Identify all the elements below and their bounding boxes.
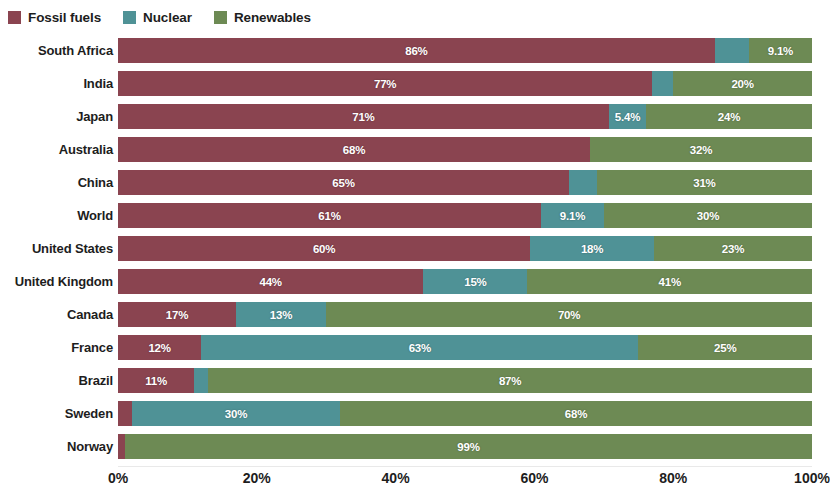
bar-value-label: 68% [343,144,365,156]
legend-swatch-nuclear [123,11,136,24]
bar-segment-fossil-fuels[interactable]: 60% [118,236,530,261]
bar-row[interactable]: 65%31% [118,170,812,195]
bar-value-label: 44% [259,276,281,288]
bar-segment-nuclear[interactable]: 15% [423,269,527,294]
bar-value-label: 18% [581,243,603,255]
bar-value-label: 12% [148,342,170,354]
bar-value-label: 61% [318,210,340,222]
bar-segment-renewables[interactable]: 87% [208,368,812,393]
bar-segment-nuclear[interactable]: 63% [201,335,638,360]
bar-segment-renewables[interactable]: 68% [340,401,812,426]
bar-segment-nuclear[interactable]: 13% [236,302,326,327]
category-label-brazil: Brazil [78,368,113,393]
bar-row[interactable]: 77%20% [118,71,812,96]
plot-area: 86%9.1%77%20%71%5.4%24%68%32%65%31%61%9.… [118,36,812,466]
bar-segment-nuclear[interactable]: 5.4% [609,104,646,129]
x-axis-tick: 0% [108,470,128,486]
bar-segment-fossil-fuels[interactable] [118,401,132,426]
bar-value-label: 63% [409,342,431,354]
bar-row[interactable]: 30%68% [118,401,812,426]
bar-segment-nuclear[interactable] [569,170,597,195]
bar-value-label: 68% [565,408,587,420]
category-label-canada: Canada [67,302,113,327]
bar-segment-fossil-fuels[interactable]: 86% [118,38,715,63]
bar-segment-renewables[interactable]: 9.1% [749,38,812,63]
x-axis-tick: 80% [659,470,687,486]
bar-value-label: 17% [166,309,188,321]
category-label-sweden: Sweden [65,401,113,426]
bar-segment-renewables[interactable]: 20% [673,71,812,96]
legend-swatch-renewables [214,11,227,24]
bar-segment-renewables[interactable]: 24% [646,104,812,129]
bar-value-label: 70% [558,309,580,321]
x-axis-tick: 100% [794,470,830,486]
bar-value-label: 60% [313,243,335,255]
bar-value-label: 99% [457,441,479,453]
bar-value-label: 77% [374,78,396,90]
bar-segment-fossil-fuels[interactable]: 77% [118,71,652,96]
bar-segment-nuclear[interactable] [194,368,208,393]
bar-segment-fossil-fuels[interactable]: 68% [118,137,590,162]
x-axis-tick: 60% [520,470,548,486]
bar-segment-nuclear[interactable]: 9.1% [541,203,604,228]
bar-segment-nuclear[interactable]: 30% [132,401,340,426]
bar-segment-renewables[interactable]: 31% [597,170,812,195]
bar-value-label: 9.1% [560,210,585,222]
bar-value-label: 15% [464,276,486,288]
bar-row[interactable]: 11%87% [118,368,812,393]
category-label-china: China [78,170,113,195]
bar-value-label: 9.1% [768,45,793,57]
bar-segment-fossil-fuels[interactable]: 65% [118,170,569,195]
bar-segment-fossil-fuels[interactable]: 11% [118,368,194,393]
bar-segment-renewables[interactable]: 32% [590,137,812,162]
bar-value-label: 65% [332,177,354,189]
bar-row[interactable]: 60%18%23% [118,236,812,261]
bar-segment-fossil-fuels[interactable] [118,434,125,459]
chart-legend: Fossil fuelsNuclearRenewables [8,6,311,28]
bar-row[interactable]: 71%5.4%24% [118,104,812,129]
bar-segment-renewables[interactable]: 41% [527,269,812,294]
bar-row[interactable]: 86%9.1% [118,38,812,63]
x-axis-tick: 40% [382,470,410,486]
category-label-australia: Australia [59,137,113,162]
category-label-world: World [77,203,113,228]
legend-item-renewables[interactable]: Renewables [214,10,311,25]
bar-segment-fossil-fuels[interactable]: 17% [118,302,236,327]
bar-value-label: 20% [731,78,753,90]
bar-segment-renewables[interactable]: 23% [654,236,812,261]
category-axis-labels: South AfricaIndiaJapanAustraliaChinaWorl… [0,36,113,466]
bar-row[interactable]: 17%13%70% [118,302,812,327]
bar-row[interactable]: 68%32% [118,137,812,162]
bar-segment-renewables[interactable]: 70% [326,302,812,327]
category-label-norway: Norway [67,434,113,459]
legend-item-nuclear[interactable]: Nuclear [123,10,192,25]
bar-segment-nuclear[interactable] [652,71,673,96]
bar-segment-fossil-fuels[interactable]: 12% [118,335,201,360]
legend-label-fossil-fuels: Fossil fuels [28,10,101,25]
category-label-united-states: United States [32,236,113,261]
bar-segment-nuclear[interactable] [715,38,749,63]
bar-value-label: 11% [145,375,167,387]
category-label-france: France [71,335,113,360]
bar-value-label: 23% [722,243,744,255]
legend-item-fossil-fuels[interactable]: Fossil fuels [8,10,101,25]
bar-row[interactable]: 44%15%41% [118,269,812,294]
category-label-south-africa: South Africa [38,38,113,63]
bar-segment-fossil-fuels[interactable]: 71% [118,104,609,129]
bar-segment-renewables[interactable]: 99% [125,434,812,459]
x-axis: 0%20%40%60%80%100% [118,466,812,496]
bar-segment-nuclear[interactable]: 18% [530,236,654,261]
bar-value-label: 41% [659,276,681,288]
category-label-japan: Japan [76,104,113,129]
bar-segment-renewables[interactable]: 30% [604,203,812,228]
bar-segment-fossil-fuels[interactable]: 44% [118,269,423,294]
x-axis-tick: 20% [243,470,271,486]
bar-segment-renewables[interactable]: 25% [638,335,812,360]
bar-row[interactable]: 61%9.1%30% [118,203,812,228]
bar-value-label: 32% [690,144,712,156]
bar-row[interactable]: 99% [118,434,812,459]
bar-row[interactable]: 12%63%25% [118,335,812,360]
bar-segment-fossil-fuels[interactable]: 61% [118,203,541,228]
bar-value-label: 71% [352,111,374,123]
